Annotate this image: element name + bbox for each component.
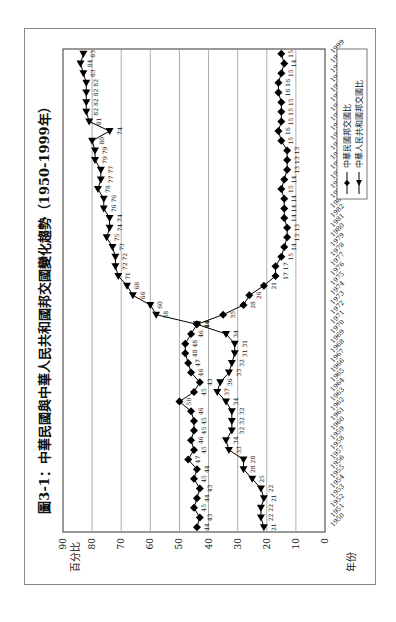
data-label: 45 <box>200 388 207 396</box>
data-label: 44 <box>203 320 210 328</box>
data-point <box>100 196 108 203</box>
data-point <box>103 234 111 241</box>
data-label: 13 <box>293 233 300 241</box>
data-point <box>88 138 96 145</box>
data-label: 83 <box>89 69 96 77</box>
data-label: 28 <box>249 301 256 309</box>
data-point <box>257 505 265 512</box>
y-tick-label: 90 <box>58 538 68 550</box>
data-label: 72 <box>121 262 128 270</box>
data-label: 15 <box>287 117 294 125</box>
data-point <box>190 504 198 512</box>
data-label: 44 <box>203 494 210 502</box>
data-label: 28 <box>249 465 256 473</box>
data-label: 76 <box>110 195 117 203</box>
data-point <box>190 446 198 454</box>
data-point <box>216 379 224 386</box>
data-label: 45 <box>200 427 207 435</box>
data-point <box>100 205 108 212</box>
data-label: 77 <box>107 166 114 174</box>
data-point <box>181 340 189 348</box>
data-point <box>228 418 236 425</box>
data-label: 32 <box>238 359 245 367</box>
data-point <box>245 291 253 299</box>
data-label: 21 <box>270 523 277 531</box>
data-point <box>277 98 285 106</box>
data-point <box>106 225 114 232</box>
y-tick-label: 20 <box>262 538 272 550</box>
data-point <box>228 360 236 367</box>
data-point <box>280 59 288 67</box>
data-label: 22 <box>267 504 274 512</box>
chart-frame: 圖3-1：中華民國與中華人民共和國邦交國變化趨勢（1950-1999年） 百分比… <box>24 28 376 585</box>
data-label: 58 <box>162 311 169 319</box>
data-point <box>187 436 195 444</box>
data-label: 46 <box>197 369 204 377</box>
data-label: 14 <box>290 204 297 212</box>
data-label: 14 <box>290 175 297 183</box>
data-label: 13 <box>293 224 300 232</box>
data-point <box>82 80 90 87</box>
data-label: 82 <box>92 108 99 116</box>
data-point <box>277 108 285 116</box>
data-point <box>283 146 291 154</box>
data-point <box>97 176 105 183</box>
data-point <box>277 185 285 193</box>
data-label: 50 <box>185 398 192 406</box>
data-label: 76 <box>110 204 117 212</box>
data-label: 26 <box>255 291 262 299</box>
chart-title: 圖3-1：中華民國與中華人民共和國邦交國變化趨勢（1950-1999年） <box>37 100 52 513</box>
data-label: 14 <box>290 243 297 251</box>
data-point <box>181 349 189 357</box>
data-label: 35 <box>229 311 236 319</box>
data-label: 44 <box>203 465 210 473</box>
data-point <box>257 515 265 522</box>
legend-entry: 中華民國邦交國比 <box>342 104 352 168</box>
data-label: 14 <box>290 214 297 222</box>
data-point <box>274 79 282 87</box>
data-label: 31 <box>241 340 248 348</box>
series-prc: 2122222122252828333432323234373633323131… <box>76 50 276 531</box>
data-point <box>219 311 227 319</box>
y-ticks: 0102030405060708090 <box>58 538 330 550</box>
data-point <box>94 186 102 193</box>
data-label: 68 <box>133 282 140 290</box>
data-point <box>129 292 137 299</box>
data-label: 45 <box>200 446 207 454</box>
data-point <box>193 494 201 502</box>
rotated-chart-page: 圖3-1：中華民國與中華人民共和國邦交國變化趨勢（1950-1999年） 百分比… <box>25 29 375 584</box>
data-label: 32 <box>238 407 245 415</box>
data-label: 74 <box>116 127 123 135</box>
data-point <box>82 99 90 106</box>
data-label: 47 <box>194 359 201 367</box>
data-point <box>239 301 247 309</box>
data-label: 16 <box>284 79 291 87</box>
data-label: 48 <box>191 340 198 348</box>
data-label: 13 <box>293 156 300 164</box>
data-label: 33 <box>235 369 242 377</box>
data-point <box>274 127 282 135</box>
data-point <box>193 523 201 531</box>
data-label: 46 <box>197 407 204 415</box>
y-tick-label: 10 <box>291 538 301 550</box>
data-label: 14 <box>290 59 297 67</box>
data-point <box>106 128 114 135</box>
data-point <box>111 263 119 270</box>
data-label: 15 <box>287 108 294 116</box>
data-point <box>82 109 90 116</box>
data-label: 43 <box>206 378 213 386</box>
data-label: 22 <box>267 514 274 522</box>
data-point <box>82 89 90 96</box>
data-label: 15 <box>287 253 294 261</box>
data-point <box>106 215 114 222</box>
data-label: 32 <box>238 427 245 435</box>
data-point <box>280 175 288 183</box>
data-label: 74 <box>116 214 123 222</box>
data-point <box>196 485 204 493</box>
data-point <box>190 388 198 396</box>
data-label: 45 <box>200 504 207 512</box>
data-point <box>277 137 285 145</box>
y-tick-label: 50 <box>174 538 184 550</box>
data-label: 34 <box>232 330 239 338</box>
data-label: 79 <box>101 156 108 164</box>
